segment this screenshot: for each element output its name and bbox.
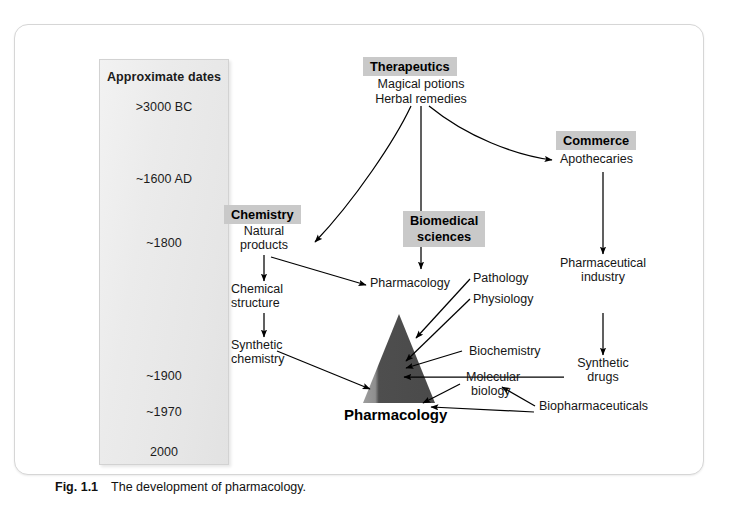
figure-caption: Fig. 1.1The development of pharmacology. [55,480,306,494]
timeline-entry-0: >3000 BC [100,100,228,114]
timeline-header: Approximate dates [100,70,228,84]
node-biopharmaceuticals: Biopharmaceuticals [539,399,648,414]
timeline-entry-3: ~1900 [100,369,228,383]
node-natural-products-line1: Natural [224,224,304,239]
pharmacology-heading: Pharmacology [344,406,447,423]
node-pharmacology: Pharmacology [370,276,450,291]
figure-card: Approximate dates >3000 BC ~1600 AD ~180… [14,24,704,475]
node-pathology: Pathology [473,271,529,286]
node-synthetic-drugs-line2: drugs [566,370,640,385]
node-pharmaceutical-industry-line1: Pharmaceutical [546,256,660,271]
timeline-entry-1: ~1600 AD [100,172,228,186]
arrow-biochemistry-to-triangle [406,351,462,368]
pharmacology-triangle [363,314,435,403]
node-biochemistry: Biochemistry [469,344,541,359]
timeline-entry-4: ~1970 [100,405,228,419]
figure-page: Approximate dates >3000 BC ~1600 AD ~180… [0,0,734,509]
figure-number: Fig. 1.1 [55,480,98,494]
arrow-physiology-to-triangle [406,299,470,361]
node-synthetic-drugs-line1: Synthetic [566,356,640,371]
node-natural-products-line2: products [224,238,304,253]
arrow-molecular-biology-to-triangle [423,384,460,403]
heading-chemistry: Chemistry [224,205,301,224]
approximate-dates-column: Approximate dates >3000 BC ~1600 AD ~180… [99,59,229,465]
arrow-natural-products-to-pharmacology-node [271,257,366,285]
heading-therapeutics: Therapeutics [363,57,457,76]
node-synthetic-chemistry-line2: chemistry [231,352,284,367]
node-molecular-biology-line1: Molecular [466,370,520,385]
node-molecular-biology-line2: biology [471,384,511,399]
figure-caption-text: The development of pharmacology. [111,480,306,494]
node-chemical-structure-line1: Chemical [231,282,283,297]
arrow-synthetic-chemistry-to-triangle [277,351,370,389]
node-apothecaries: Apothecaries [560,152,633,167]
timeline-entry-2: ~1800 [100,236,228,250]
arrow-therapeutics-to-natural-products [315,106,411,242]
node-physiology: Physiology [473,292,533,307]
heading-commerce: Commerce [556,131,636,150]
node-herbal-remedies: Herbal remedies [355,92,487,107]
node-pharmaceutical-industry-line2: industry [546,270,660,285]
timeline-entry-5: 2000 [100,445,228,459]
heading-biomedical-sciences: Biomedical sciences [403,211,485,247]
node-magical-potions: Magical potions [355,77,487,92]
node-synthetic-chemistry-line1: Synthetic [231,338,282,353]
node-chemical-structure-line2: structure [231,296,280,311]
arrow-therapeutics-to-apothecaries [429,106,552,160]
